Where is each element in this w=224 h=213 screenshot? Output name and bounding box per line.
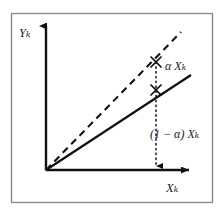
upper-reference-line bbox=[46, 32, 181, 170]
diagram-canvas bbox=[0, 0, 224, 213]
annotation-one-minus-alpha-xk: (1 − α) Xₖ bbox=[150, 128, 199, 140]
y-axis-label: Yₖ bbox=[19, 27, 31, 40]
lower-response-line bbox=[46, 75, 191, 170]
figure-container: Yₖ Xₖ α Xₖ (1 − α) Xₖ bbox=[0, 0, 224, 213]
figure-frame bbox=[12, 14, 213, 203]
annotation-alpha-xk: α Xₖ bbox=[165, 60, 186, 72]
x-axis-label: Xₖ bbox=[166, 182, 178, 195]
